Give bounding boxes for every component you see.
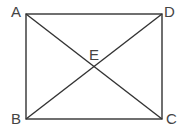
label-e: E: [89, 46, 99, 63]
label-a: A: [11, 3, 21, 20]
label-c: C: [166, 110, 177, 127]
label-b: B: [11, 110, 21, 127]
label-d: D: [164, 3, 175, 20]
geometry-diagram: A D B C E: [0, 0, 187, 129]
